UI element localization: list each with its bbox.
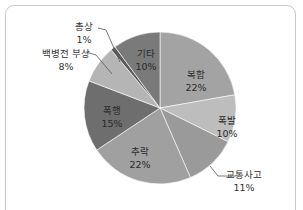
slice-label: 백병전 부상 (42, 48, 90, 59)
slice-value: 1% (76, 34, 91, 45)
pie-chart: 복합22%폭발10%교통사고11%추락22%폭행15%백병전 부상8%총상1%기… (0, 0, 303, 210)
slice-value: 8% (58, 61, 73, 72)
slice-value: 10% (135, 61, 156, 72)
slice-label: 복합 (187, 69, 205, 80)
slice-label: 폭발 (218, 115, 236, 126)
slice-label: 총상 (75, 21, 93, 32)
slice-label: 교통사고 (226, 169, 262, 180)
slice-value: 10% (216, 128, 237, 139)
slice-label: 폭행 (103, 105, 121, 116)
slice-value: 15% (101, 118, 122, 129)
slice-label: 추락 (131, 146, 149, 157)
slice-value: 22% (185, 82, 206, 93)
slice-label: 기타 (137, 48, 155, 59)
slice-value: 11% (233, 182, 254, 193)
slice-value: 22% (129, 159, 150, 170)
